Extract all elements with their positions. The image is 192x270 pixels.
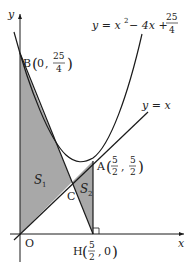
svg-text:A: A bbox=[96, 160, 106, 173]
svg-text:4: 4 bbox=[169, 25, 175, 35]
origin-label: O bbox=[25, 237, 34, 250]
svg-text:2: 2 bbox=[89, 252, 95, 262]
x-axis-label: x bbox=[178, 237, 185, 250]
y-axis-arrow-icon bbox=[18, 14, 22, 19]
point-b-label: B ( 0 , 25 4 ) bbox=[23, 51, 73, 74]
svg-text:5: 5 bbox=[89, 240, 95, 250]
svg-text:S: S bbox=[80, 182, 88, 196]
svg-text:2: 2 bbox=[112, 167, 118, 177]
svg-text:5: 5 bbox=[130, 155, 136, 165]
y-axis-label: y bbox=[7, 8, 15, 21]
svg-text:2: 2 bbox=[130, 167, 136, 177]
svg-text:25: 25 bbox=[166, 12, 178, 22]
parabola-equation: y = x 2 − 4x + 25 4 bbox=[91, 12, 178, 35]
svg-text:2: 2 bbox=[124, 17, 128, 25]
point-a-label: A ( 5 2 , 5 2 ) bbox=[96, 155, 144, 177]
svg-text:1: 1 bbox=[42, 181, 46, 189]
x-axis-arrow-icon bbox=[179, 232, 184, 236]
svg-text:y = x: y = x bbox=[91, 19, 121, 32]
point-h-label: H ( 5 2 , 0 ) bbox=[73, 240, 118, 262]
svg-text:S: S bbox=[34, 173, 42, 187]
svg-text:0: 0 bbox=[104, 245, 111, 258]
svg-text:5: 5 bbox=[112, 155, 118, 165]
svg-text:,: , bbox=[121, 160, 125, 173]
svg-text:4: 4 bbox=[56, 64, 62, 74]
diagram-canvas: y x O y = x 2 − 4x + 25 4 y = x B ( 0 , … bbox=[0, 0, 192, 270]
svg-text:− 4x +: − 4x + bbox=[129, 19, 168, 32]
region-s1 bbox=[20, 53, 72, 234]
svg-text:(: ( bbox=[106, 158, 112, 176]
line-label: y = x bbox=[141, 99, 171, 112]
svg-text:,: , bbox=[98, 245, 102, 258]
svg-text:25: 25 bbox=[53, 51, 65, 61]
svg-text:B: B bbox=[23, 57, 31, 70]
svg-text:,: , bbox=[45, 57, 49, 70]
svg-text:0: 0 bbox=[37, 57, 44, 70]
svg-text:): ) bbox=[67, 55, 73, 73]
svg-text:(: ( bbox=[82, 243, 88, 261]
right-angle-mark bbox=[93, 228, 99, 234]
svg-text:2: 2 bbox=[88, 190, 92, 198]
svg-text:): ) bbox=[112, 243, 118, 261]
point-c-label: C bbox=[67, 190, 75, 203]
svg-text:): ) bbox=[138, 158, 144, 176]
